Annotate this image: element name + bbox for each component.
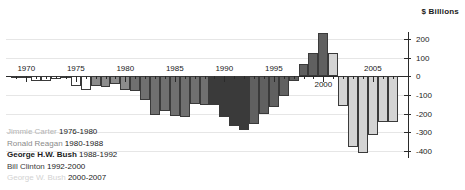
legend-item-years: 1992-2000 xyxy=(47,162,85,171)
legend-item-name: George H.W. Bush xyxy=(7,150,79,159)
budget-deficit-chart: $ Billions 2001000-100-200-300-400 19701… xyxy=(0,0,465,190)
x-tick-minor xyxy=(284,76,285,79)
x-tick-minor xyxy=(56,76,57,79)
bar xyxy=(378,76,388,122)
x-tick-minor xyxy=(86,76,87,79)
y-tick xyxy=(404,151,411,152)
x-tick-label: 1980 xyxy=(116,64,134,73)
bar xyxy=(348,76,358,146)
x-tick-label: 2000 xyxy=(314,80,332,89)
x-tick-minor xyxy=(16,76,17,79)
bar xyxy=(388,76,398,122)
x-tick-minor xyxy=(46,76,47,79)
x-tick-label: 2005 xyxy=(364,64,382,73)
x-tick-minor xyxy=(205,76,206,79)
bar xyxy=(209,76,219,104)
x-tick-minor xyxy=(254,76,255,79)
bar xyxy=(299,64,309,77)
x-tick-major xyxy=(26,76,27,82)
x-tick-minor xyxy=(304,76,305,79)
x-tick-minor xyxy=(383,76,384,79)
y-tick-label: 100 xyxy=(416,53,429,62)
y-tick xyxy=(404,76,411,77)
bar xyxy=(200,76,210,105)
x-tick-minor xyxy=(353,76,354,79)
y-tick-label: 0 xyxy=(416,72,420,81)
legend-item: Jimmie Carter 1976-1980 xyxy=(7,126,117,138)
y-tick xyxy=(404,95,411,96)
x-tick-label: 1985 xyxy=(166,64,184,73)
bar xyxy=(239,76,249,130)
y-tick-label: -400 xyxy=(416,146,432,155)
legend-item-name: Jimmie Carter xyxy=(7,127,59,136)
y-tick xyxy=(404,132,411,133)
y-tick-label: 200 xyxy=(416,35,429,44)
x-tick-major xyxy=(125,76,126,82)
x-tick-major xyxy=(373,76,374,82)
x-tick-label: 1975 xyxy=(67,64,85,73)
bar xyxy=(318,33,328,77)
x-tick-major xyxy=(175,76,176,82)
bar xyxy=(328,53,338,77)
y-tick xyxy=(404,58,411,59)
bar xyxy=(358,76,368,153)
y-tick xyxy=(404,114,411,115)
legend-item: Bill Clinton 1992-2000 xyxy=(7,161,117,173)
bar xyxy=(338,76,348,105)
gridline xyxy=(6,39,408,40)
bar xyxy=(150,76,160,115)
x-tick-minor xyxy=(106,76,107,79)
legend: Jimmie Carter 1976-1980Ronald Reagan 198… xyxy=(7,126,117,184)
x-tick-minor xyxy=(294,76,295,79)
x-tick-minor xyxy=(145,76,146,79)
x-tick-minor xyxy=(333,76,334,79)
y-tick-label: -200 xyxy=(416,109,432,118)
x-tick-major xyxy=(274,76,275,82)
legend-item-name: George W. Bush xyxy=(7,173,68,182)
x-tick-minor xyxy=(115,76,116,79)
x-tick-minor xyxy=(264,76,265,79)
x-tick-label: 1970 xyxy=(17,64,35,73)
x-tick-minor xyxy=(155,76,156,79)
y-tick-label: -300 xyxy=(416,128,432,137)
x-tick-minor xyxy=(185,76,186,79)
legend-item-years: 1976-1980 xyxy=(59,127,97,136)
legend-item-name: Ronald Reagan xyxy=(7,139,65,148)
x-tick-minor xyxy=(244,76,245,79)
y-axis-unit-label: $ Billions xyxy=(421,7,459,16)
bar xyxy=(219,76,229,117)
legend-item: George H.W. Bush 1988-1992 xyxy=(7,149,117,161)
bar xyxy=(308,53,318,76)
bar xyxy=(229,76,239,126)
bar xyxy=(368,76,378,135)
gridline xyxy=(6,58,408,59)
x-tick-major xyxy=(76,76,77,82)
bar xyxy=(259,76,269,114)
bar xyxy=(160,76,170,110)
x-tick-minor xyxy=(214,76,215,79)
legend-item-name: Bill Clinton xyxy=(7,162,47,171)
bar xyxy=(180,76,190,117)
x-tick-label: 1990 xyxy=(215,64,233,73)
legend-item-years: 2000-2007 xyxy=(68,173,106,182)
x-tick-minor xyxy=(165,76,166,79)
legend-item: George W. Bush 2000-2007 xyxy=(7,172,117,184)
bar xyxy=(190,76,200,104)
x-tick-minor xyxy=(313,76,314,79)
y-tick xyxy=(404,39,411,40)
x-tick-minor xyxy=(363,76,364,79)
x-tick-minor xyxy=(135,76,136,79)
x-tick-minor xyxy=(195,76,196,79)
x-tick-minor xyxy=(393,76,394,79)
x-tick-minor xyxy=(66,76,67,79)
legend-item-years: 1980-1988 xyxy=(65,139,103,148)
y-tick-label: -100 xyxy=(416,91,432,100)
x-tick-major xyxy=(224,76,225,82)
x-tick-minor xyxy=(343,76,344,79)
x-tick-minor xyxy=(96,76,97,79)
legend-item: Ronald Reagan 1980-1988 xyxy=(7,138,117,150)
x-tick-label: 1995 xyxy=(265,64,283,73)
legend-item-years: 1988-1992 xyxy=(79,150,117,159)
x-tick-minor xyxy=(234,76,235,79)
x-tick-minor xyxy=(36,76,37,79)
